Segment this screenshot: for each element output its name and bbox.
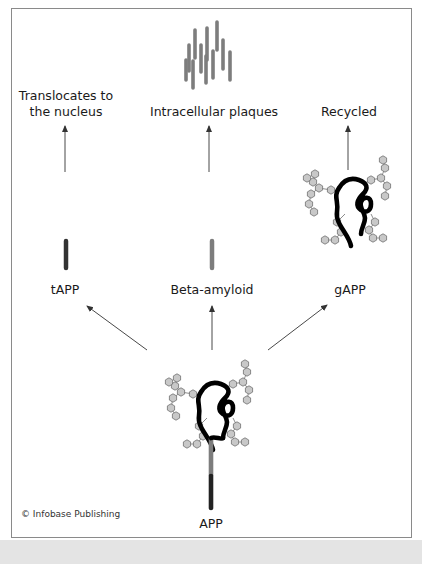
arrow-app-to-gapp	[268, 305, 327, 350]
nucleus-label: Translocates to the nucleus	[12, 88, 120, 120]
app-label: APP	[186, 516, 236, 532]
app-glycoprotein-icon	[165, 360, 252, 508]
recycled-label: Recycled	[310, 104, 388, 120]
copyright-credit: © Infobase Publishing	[21, 509, 120, 519]
arrow-app-to-tapp	[87, 306, 147, 350]
plaques-label: Intracellular plaques	[150, 104, 270, 120]
tapp-label: tAPP	[40, 282, 90, 298]
beta-amyloid-label: Beta-amyloid	[160, 282, 264, 298]
gapp-label: gAPP	[322, 282, 378, 298]
gapp-glycoprotein-icon	[303, 156, 390, 246]
nucleus-label-line2: the nucleus	[12, 104, 120, 120]
plaques-cluster-icon	[186, 22, 230, 88]
nucleus-label-line1: Translocates to	[12, 88, 120, 104]
